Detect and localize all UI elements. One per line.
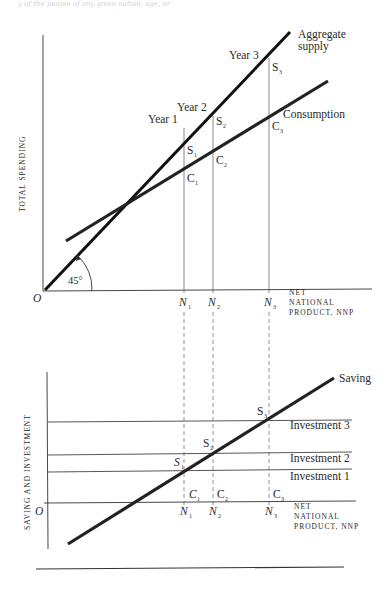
svg-text:2: 2 — [217, 304, 220, 310]
svg-text:N: N — [179, 505, 189, 517]
top-n2-label: N2 — [207, 296, 220, 310]
bottom-n2-label: N2 — [208, 505, 221, 519]
top-n1-label: N1 — [178, 296, 191, 310]
svg-text:S: S — [272, 61, 278, 73]
bottom-c3-label: C3 — [273, 488, 284, 502]
bottom-c2-label: C2 — [217, 488, 228, 502]
top-y-axis-label: TOTAL SPENDING — [18, 135, 27, 212]
top-s3-label: S3 — [272, 61, 282, 75]
svg-text:C: C — [272, 120, 280, 132]
year-1-label: Year 1 — [148, 113, 178, 125]
bottom-s2-label: S2 — [203, 437, 213, 451]
bottom-n1-label: N1 — [179, 505, 192, 519]
svg-text:N: N — [263, 296, 273, 308]
page-rule — [36, 567, 344, 569]
svg-text:N: N — [264, 505, 274, 517]
bottom-c1-label: C1 — [189, 488, 200, 502]
year-3-label: Year 3 — [229, 49, 259, 61]
bottom-y-axis-label: SAVING AND INVESTMENT — [23, 414, 32, 530]
top-x-axis-label-3: PRODUCT, NNP — [289, 308, 354, 317]
svg-text:N: N — [207, 296, 217, 308]
investment-1-label: Investment 1 — [290, 470, 350, 482]
svg-text:3: 3 — [264, 413, 267, 419]
top-n3-label: N3 — [263, 296, 276, 310]
svg-text:1: 1 — [195, 180, 198, 186]
top-c1-label: C1 — [187, 172, 198, 186]
svg-text:S: S — [187, 144, 193, 156]
svg-text:1: 1 — [188, 304, 191, 310]
top-x-axis-label-2: NATIONAL — [289, 298, 335, 307]
top-x-axis-label-1: NET — [289, 288, 307, 297]
svg-text:3: 3 — [280, 128, 283, 134]
svg-text:S: S — [174, 456, 180, 468]
investment-3-label: Investment 3 — [290, 419, 350, 431]
bottom-s3-label: S3 — [257, 405, 267, 419]
svg-text:3: 3 — [273, 304, 276, 310]
svg-text:3: 3 — [279, 69, 282, 75]
top-s2-label: S2 — [216, 115, 226, 129]
svg-text:3: 3 — [281, 496, 284, 502]
bottom-x-axis-label-1: NET — [294, 502, 312, 511]
svg-text:1: 1 — [197, 496, 200, 502]
saving-label: Saving — [339, 372, 371, 385]
svg-text:C: C — [217, 488, 225, 500]
top-origin-label: O — [33, 292, 42, 304]
svg-text:S: S — [203, 437, 209, 449]
year-2-label: Year 2 — [177, 101, 207, 113]
top-chart: TOTAL SPENDING 45° O Aggregate supply Co… — [18, 28, 372, 317]
bottom-n3-label: N3 — [264, 505, 277, 519]
aggregate-supply-line — [45, 32, 290, 290]
svg-text:S: S — [216, 115, 222, 127]
consumption-label: Consumption — [283, 108, 345, 121]
svg-text:N: N — [208, 505, 218, 517]
aggregate-supply-label-2: supply — [298, 40, 329, 53]
top-s1-label: S1 — [187, 144, 197, 158]
investment-2-label: Investment 2 — [290, 452, 350, 464]
svg-text:C: C — [216, 154, 224, 166]
bottom-chart: SAVING AND INVESTMENT O Saving Investmen… — [23, 372, 371, 549]
svg-text:2: 2 — [225, 496, 228, 502]
bottom-origin-label: O — [35, 505, 44, 517]
bottom-s1-label: S1 — [174, 456, 184, 470]
svg-text:2: 2 — [218, 513, 221, 519]
svg-text:C: C — [187, 172, 195, 184]
svg-text:3: 3 — [274, 513, 277, 519]
svg-text:C: C — [273, 488, 281, 500]
svg-text:1: 1 — [194, 152, 197, 158]
svg-text:S: S — [257, 405, 263, 417]
svg-text:2: 2 — [223, 123, 226, 129]
svg-text:1: 1 — [181, 464, 184, 470]
nnp-figure: TOTAL SPENDING 45° O Aggregate supply Co… — [0, 0, 387, 589]
angle-label: 45° — [68, 275, 83, 286]
bottom-x-axis-label-3: PRODUCT, NNP — [294, 522, 359, 531]
bottom-y-axis — [47, 372, 48, 549]
svg-text:C: C — [189, 488, 197, 500]
top-c3-label: C3 — [272, 120, 283, 134]
svg-text:2: 2 — [224, 162, 227, 168]
top-c2-label: C2 — [216, 154, 227, 168]
bottom-x-axis-label-2: NATIONAL — [294, 512, 340, 521]
svg-text:1: 1 — [189, 513, 192, 519]
svg-text:N: N — [178, 296, 188, 308]
svg-text:2: 2 — [210, 445, 213, 451]
